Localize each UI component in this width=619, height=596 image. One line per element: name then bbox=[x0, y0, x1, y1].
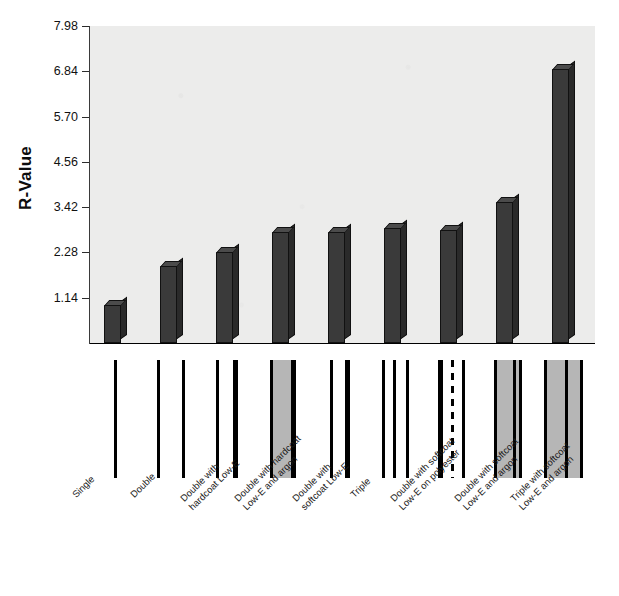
glazing-pane bbox=[182, 360, 185, 478]
glazing-pane bbox=[406, 360, 409, 478]
bar bbox=[496, 202, 513, 343]
glazing-air-cavity bbox=[385, 360, 393, 478]
y-axis-tick-label: 1.14 bbox=[28, 291, 78, 305]
y-axis-tick-label-text: 2.28 bbox=[32, 245, 78, 259]
y-axis-tick bbox=[82, 71, 89, 72]
glazing-air-cavity bbox=[160, 360, 182, 478]
bar-side-face bbox=[401, 219, 407, 339]
bar-side-face bbox=[569, 61, 575, 339]
glazing-pane bbox=[462, 360, 465, 478]
glazing-diagrams bbox=[0, 360, 619, 480]
y-axis-tick-label: 2.28 bbox=[28, 245, 78, 259]
bar-front-face bbox=[216, 252, 233, 343]
bar-side-face bbox=[289, 223, 295, 339]
x-axis-line bbox=[90, 343, 595, 344]
y-axis-tick bbox=[82, 162, 89, 163]
y-axis-tick bbox=[82, 117, 89, 118]
y-axis-tick bbox=[82, 252, 89, 253]
glazing-pane bbox=[114, 360, 117, 478]
bar bbox=[160, 266, 177, 343]
y-axis-tick-label-text: 4.56 bbox=[32, 155, 78, 169]
glazing-air-cavity bbox=[396, 360, 406, 478]
glazing-pane bbox=[580, 360, 583, 478]
bar-side-face bbox=[345, 223, 351, 339]
glazing-diagram bbox=[114, 360, 117, 478]
bar-front-face bbox=[272, 232, 289, 343]
y-axis-tick-label: 7.98 bbox=[28, 19, 78, 33]
y-axis-line bbox=[89, 26, 90, 344]
y-axis-tick-label: 6.84 bbox=[28, 64, 78, 78]
y-axis-tick-label-text: 7.98 bbox=[32, 19, 78, 33]
bar bbox=[440, 230, 457, 343]
bar-front-face bbox=[440, 230, 457, 343]
bar bbox=[272, 232, 289, 343]
bar-front-face bbox=[384, 228, 401, 343]
bar-side-face bbox=[177, 257, 183, 339]
y-axis-tick bbox=[82, 298, 89, 299]
y-axis-tick-label: 5.70 bbox=[28, 110, 78, 124]
x-axis-category-labels: SingleDoubleDouble with hardcoat Low-EDo… bbox=[0, 482, 619, 596]
bar-side-face bbox=[457, 221, 463, 339]
glazing-pane bbox=[345, 360, 350, 478]
y-axis-tick-label-text: 1.14 bbox=[32, 291, 78, 305]
bar bbox=[552, 69, 569, 343]
bar-side-face bbox=[233, 243, 239, 339]
bar-front-face bbox=[496, 202, 513, 343]
bar bbox=[328, 232, 345, 343]
y-axis-tick-label-text: 5.70 bbox=[32, 110, 78, 124]
bar bbox=[384, 228, 401, 343]
glazing-diagram bbox=[157, 360, 185, 478]
bar-front-face bbox=[104, 305, 121, 343]
y-axis-tick-label: 3.42 bbox=[28, 200, 78, 214]
bar bbox=[104, 305, 121, 343]
y-axis-tick-label-text: 6.84 bbox=[32, 64, 78, 78]
bar-front-face bbox=[552, 69, 569, 343]
y-axis-tick-label: 4.56 bbox=[28, 155, 78, 169]
bar-front-face bbox=[160, 266, 177, 343]
bar-side-face bbox=[513, 194, 519, 339]
y-axis-tick bbox=[82, 207, 89, 208]
bar bbox=[216, 252, 233, 343]
r-value-bar-chart: R-Value 7.986.845.704.563.422.281.14 Sin… bbox=[0, 0, 619, 596]
bar-front-face bbox=[328, 232, 345, 343]
y-axis-title: R-Value bbox=[6, 118, 46, 238]
glazing-diagram bbox=[382, 360, 409, 478]
y-axis-tick-label-text: 3.42 bbox=[32, 200, 78, 214]
y-axis-tick bbox=[82, 26, 89, 27]
